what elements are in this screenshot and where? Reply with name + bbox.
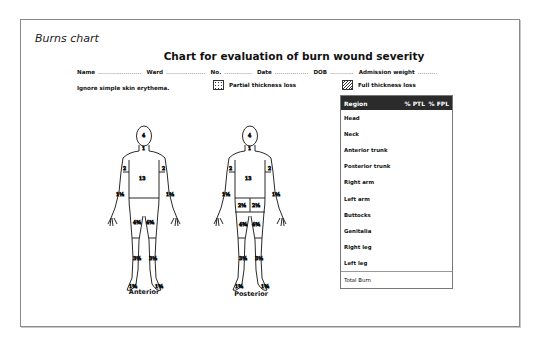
row-label: Anterior trunk <box>344 147 387 153</box>
table-row[interactable]: Right leg <box>341 239 452 255</box>
posterior-leg-l-value: 3½ <box>255 255 263 261</box>
row-label: Buttocks <box>344 212 371 218</box>
posterior-forearm-r-value: 1½ <box>222 191 230 197</box>
row-label: Genitalia <box>344 228 371 234</box>
anterior-head-value: 4 <box>142 132 145 138</box>
posterior-trunk-value: 13 <box>245 175 251 181</box>
table-row[interactable]: Posterior trunk <box>341 158 452 174</box>
field-dob-blank[interactable]: ............ <box>330 69 354 75</box>
field-weight-label: Admission weight <box>359 69 415 75</box>
posterior-upper-arm-r-value: 2 <box>229 165 232 171</box>
posterior-foot-r-value: 1¾ <box>235 283 243 289</box>
anterior-forearm-l-value: 1½ <box>166 191 174 197</box>
legend-partial: Partial thickness loss <box>213 80 296 90</box>
posterior-thigh-r-value: 4¾ <box>239 221 247 227</box>
table-row[interactable]: Right arm <box>341 174 452 190</box>
row-label: Neck <box>344 131 359 137</box>
field-dob-label: DOB <box>313 69 327 75</box>
field-ward-blank[interactable]: .................... <box>166 69 206 75</box>
anterior-thigh-r-value: 4¾ <box>133 219 141 225</box>
anterior-upper-arm-l-value: 2 <box>162 165 165 171</box>
field-date-blank[interactable]: ................. <box>275 69 309 75</box>
posterior-buttock-l-value: 2½ <box>252 202 260 208</box>
posterior-label: Posterior <box>211 290 291 298</box>
posterior-forearm-l-value: 1½ <box>272 191 280 197</box>
posterior-neck-value: 1 <box>248 145 251 151</box>
legend-full-label: Full thickness loss <box>358 82 416 88</box>
row-label: Right leg <box>344 244 372 250</box>
posterior-buttock-r-value: 2½ <box>238 202 246 208</box>
anterior-neck-value: 1 <box>142 145 145 151</box>
field-date-label: Date <box>257 69 272 75</box>
table-row[interactable]: Left arm <box>341 190 452 206</box>
anterior-thigh-l-value: 4¾ <box>146 219 154 225</box>
header-ptl: % PTL <box>395 100 425 107</box>
field-name-label: Name <box>77 69 95 75</box>
field-no-blank[interactable]: .............. <box>224 69 252 75</box>
anterior-forearm-r-value: 1½ <box>116 191 124 197</box>
field-weight-blank[interactable]: .......... <box>418 69 438 75</box>
header-region: Region <box>344 100 395 107</box>
table-total-row[interactable]: Total Burn <box>341 271 452 288</box>
posterior-thigh-l-value: 4¾ <box>252 221 260 227</box>
legend-full: Full thickness loss <box>342 80 416 90</box>
erythema-note: Ignore simple skin erythema. <box>77 85 169 91</box>
table-row[interactable]: Anterior trunk <box>341 142 452 158</box>
caption: Burns chart <box>35 32 99 45</box>
posterior-head-value: 4 <box>248 132 251 138</box>
posterior-foot-l-value: 1¾ <box>261 283 269 289</box>
anterior-upper-arm-r-value: 2 <box>123 165 126 171</box>
row-label: Posterior trunk <box>344 163 390 169</box>
anterior-body-figure: 4 1 13 2 2 1½ 1½ 4¾ 4¾ 3½ 3½ 1¾ 1¾ <box>99 120 189 302</box>
burns-chart-panel: Burns chart Chart for evaluation of burn… <box>20 19 520 327</box>
anterior-leg-l-value: 3½ <box>149 255 157 261</box>
legend-partial-label: Partial thickness loss <box>229 82 296 88</box>
row-label: Right arm <box>344 179 374 185</box>
patient-fields: Name...................... Ward.........… <box>77 69 441 75</box>
table-row[interactable]: Head <box>341 110 452 126</box>
header-fpl: % FPL <box>425 100 449 107</box>
row-label: Left leg <box>344 260 367 266</box>
row-label: Head <box>344 115 360 121</box>
posterior-body-figure: 4 1 13 2 2 1½ 1½ 2½ 2½ 4¾ 4¾ 3½ 3½ 1¾ 1¾ <box>205 120 295 302</box>
field-ward-label: Ward <box>147 69 164 75</box>
table-header: Region % PTL % FPL <box>341 96 452 110</box>
anterior-leg-r-value: 3½ <box>133 255 141 261</box>
burn-region-table: Region % PTL % FPL Head Neck Anterior tr… <box>340 95 453 289</box>
table-row[interactable]: Buttocks <box>341 207 452 223</box>
posterior-upper-arm-l-value: 2 <box>268 165 271 171</box>
anterior-label: Anterior <box>104 288 184 296</box>
table-row[interactable]: Neck <box>341 126 452 142</box>
row-label: Left arm <box>344 196 370 202</box>
full-thickness-swatch-icon <box>342 80 353 90</box>
field-name-blank[interactable]: ...................... <box>98 69 142 75</box>
anterior-trunk-value: 13 <box>139 175 145 181</box>
partial-thickness-swatch-icon <box>213 80 224 90</box>
posterior-leg-r-value: 3½ <box>239 255 247 261</box>
field-no-label: No. <box>211 69 222 75</box>
table-row[interactable]: Left leg <box>341 255 452 271</box>
table-row[interactable]: Genitalia <box>341 223 452 239</box>
chart-title: Chart for evaluation of burn wound sever… <box>21 50 519 62</box>
total-label: Total Burn <box>344 277 371 283</box>
